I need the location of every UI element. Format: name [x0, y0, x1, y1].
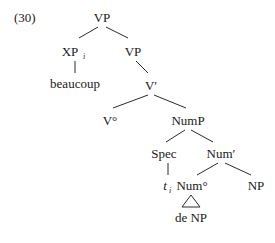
- trace-index: i: [169, 186, 171, 195]
- branch-vp-xp: [79, 27, 98, 38]
- triangle-icon: [182, 195, 200, 207]
- branch-nump-spec: [166, 130, 185, 142]
- node-v0: V°: [103, 113, 118, 128]
- branch-vbar-v0: [113, 95, 148, 108]
- node-numbar: Num′: [207, 146, 236, 161]
- branch-nump-numbar: [191, 130, 213, 142]
- node-num0: Num°: [176, 178, 207, 193]
- node-spec: Spec: [151, 146, 177, 161]
- node-np: NP: [248, 178, 265, 193]
- node-xp: XP i: [62, 44, 86, 61]
- branch-vp-vp: [106, 27, 128, 38]
- svg-text:t: t: [163, 178, 167, 193]
- example-number: (30): [14, 10, 36, 25]
- branch-vp-vbar: [136, 61, 148, 73]
- branch-numbar-np: [225, 163, 251, 175]
- node-nump: NumP: [171, 113, 204, 128]
- svg-text:XP: XP: [62, 44, 79, 59]
- syntax-tree-diagram: (30) VP XP i beaucoup VP V′ V° NumP Spec…: [0, 0, 275, 243]
- node-vbar: V′: [145, 78, 157, 93]
- leaf-beaucoup: beaucoup: [50, 76, 100, 91]
- node-vp: VP: [125, 44, 142, 59]
- branch-vbar-nump: [154, 95, 186, 108]
- node-vp-root: VP: [94, 10, 111, 25]
- leaf-de-np: de NP: [175, 210, 207, 225]
- branch-numbar-num0: [197, 163, 218, 175]
- xp-index: i: [83, 52, 85, 61]
- node-trace: t i: [163, 178, 171, 195]
